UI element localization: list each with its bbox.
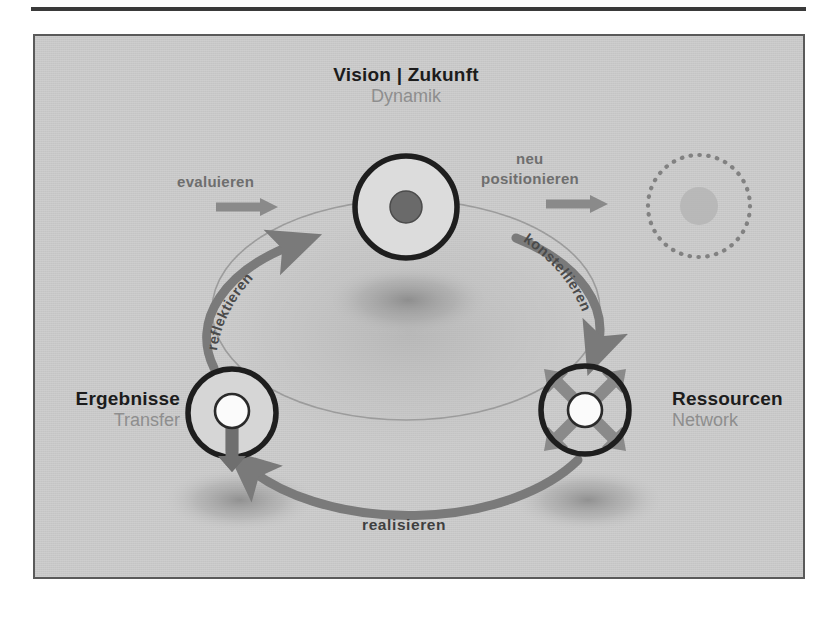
label-ergebnisse-transfer: Ergebnisse Transfer [0, 388, 180, 431]
dotted-circle-icon [648, 155, 750, 257]
shadow-left-node [162, 468, 318, 532]
evaluieren-arrow-icon [216, 198, 278, 216]
label-ressourcen-network: Ressourcen Network [672, 388, 836, 431]
node-ressourcen[interactable] [534, 359, 636, 461]
label-positionieren: positionieren [481, 170, 579, 187]
label-neu: neu [516, 150, 544, 167]
node-vision[interactable] [355, 156, 457, 258]
label-vision-zukunft: Vision | Zukunft Dynamik [256, 64, 556, 107]
diagram-page: reflektieren konstellieren Vision | Zuku… [0, 0, 836, 620]
shadow-right-node [510, 468, 666, 532]
ergebnisse-title: Ergebnisse [0, 388, 180, 410]
ressourcen-subtitle: Network [672, 410, 836, 431]
shadow-top-node [322, 264, 494, 336]
vision-title: Vision | Zukunft [256, 64, 556, 86]
label-evaluieren: evaluieren [177, 173, 254, 190]
ergebnisse-subtitle: Transfer [0, 410, 180, 431]
node-ergebnisse[interactable] [188, 369, 276, 472]
neu-positionieren-arrow-icon [546, 195, 608, 213]
ressourcen-title: Ressourcen [672, 388, 836, 410]
label-realisieren: realisieren [362, 516, 446, 534]
vision-subtitle: Dynamik [256, 86, 556, 107]
